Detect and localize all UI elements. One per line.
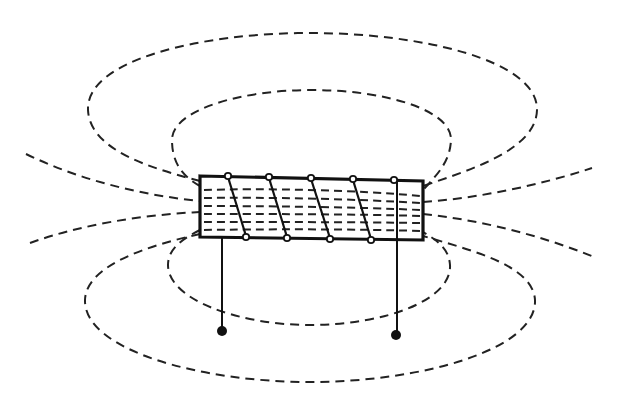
right-terminal-dot <box>391 330 401 340</box>
field-line-left-upper <box>26 154 200 201</box>
core-field-lines <box>204 189 420 231</box>
field-line-left-lower <box>30 212 200 243</box>
left-terminal-dot <box>217 326 227 336</box>
field-line-right-upper <box>423 168 592 202</box>
field-line-inner-bottom <box>168 230 450 325</box>
coil-windings <box>225 173 397 243</box>
diagram-canvas <box>0 0 619 402</box>
field-line-outer-bottom <box>85 234 535 382</box>
solenoid-field-diagram <box>0 0 619 402</box>
field-line-right-lower <box>423 214 594 257</box>
field-line-outer-top <box>88 33 537 186</box>
